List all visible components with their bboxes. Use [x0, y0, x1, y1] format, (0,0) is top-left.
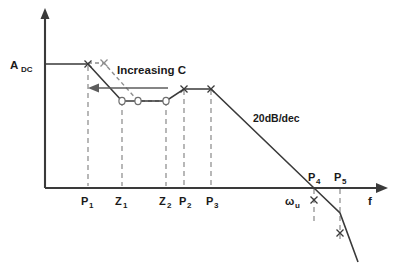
y-axis-label: A — [10, 59, 18, 71]
unity-gain-frequency-label: ω u — [285, 195, 300, 210]
tick-label-p4-sub: 4 — [316, 177, 321, 186]
tick-label-z1: Z 1 — [115, 195, 128, 210]
bode-plot-figure: Increasing C 20dB/dec A DC f P 1 Z 1 Z 2… — [0, 0, 404, 274]
marker-x-p1-shifted — [101, 60, 108, 67]
x-axis-label: f — [368, 195, 372, 207]
tick-label-z1-text: Z — [115, 195, 122, 207]
tick-label-p3-text: P — [206, 195, 213, 207]
tick-label-p2-sub: 2 — [187, 201, 192, 210]
marker-circle-z2 — [163, 97, 169, 104]
omega-u-text: ω — [285, 195, 294, 207]
y-axis-label-subscript: DC — [21, 65, 33, 74]
tick-label-z2-text: Z — [159, 195, 166, 207]
tick-labels-above-axis-group: P 4 P 5 — [308, 171, 347, 186]
tick-label-p3: P 3 — [206, 195, 219, 210]
marker-circle-z1 — [119, 97, 125, 104]
y-axis-arrowhead — [41, 8, 50, 19]
marker-circle-z1-shifted — [135, 97, 141, 104]
axes-group — [41, 8, 389, 193]
tick-label-p5-sub: 5 — [342, 177, 347, 186]
magnitude-curve-path — [45, 64, 358, 262]
increasing-c-annotation: Increasing C — [88, 64, 186, 93]
increasing-c-arrowhead — [88, 84, 99, 93]
tick-label-p2-text: P — [179, 195, 186, 207]
tick-labels-group: P 1 Z 1 Z 2 P 2 P 3 — [81, 195, 219, 210]
x-axis-arrowhead — [376, 183, 388, 193]
tick-label-p1-sub: 1 — [89, 201, 94, 210]
increasing-c-label: Increasing C — [117, 64, 186, 76]
tick-label-z2: Z 2 — [159, 195, 172, 210]
tick-label-p4-text: P — [308, 171, 315, 183]
magnitude-response-curve — [45, 64, 358, 262]
slope-label: 20dB/dec — [253, 112, 300, 124]
y-axis-label-group: A DC — [10, 59, 33, 74]
tick-label-p5: P 5 — [334, 171, 347, 186]
tick-label-p2: P 2 — [179, 195, 192, 210]
tick-label-p3-sub: 3 — [214, 201, 219, 210]
tick-label-p1-text: P — [81, 195, 88, 207]
tick-label-p5-text: P — [334, 171, 341, 183]
tick-label-z1-sub: 1 — [123, 201, 128, 210]
omega-u-sub: u — [295, 201, 300, 210]
tick-label-p1: P 1 — [81, 195, 94, 210]
tick-label-z2-sub: 2 — [167, 201, 172, 210]
